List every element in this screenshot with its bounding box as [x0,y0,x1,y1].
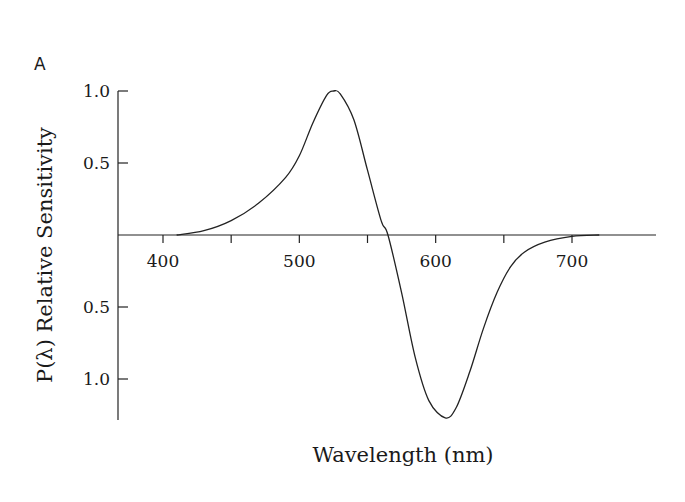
x-tick-label: 500 [283,251,315,271]
sensitivity-curve [177,91,600,419]
x-tick-label: 400 [147,251,179,271]
y-tick-label: 0.5 [83,153,110,173]
y-tick-label: 0.5 [83,297,110,317]
chart-figure: A 1.00.50.51.0 400500600700 P(λ) Relativ… [0,0,685,502]
y-tick-label: 1.0 [83,369,110,389]
x-tick-label: 600 [419,251,451,271]
y-tick-label: 1.0 [83,81,110,101]
x-axis-label: Wavelength (nm) [312,443,493,467]
y-axis-label: P(λ) Relative Sensitivity [33,127,57,383]
panel-label: A [34,54,46,74]
x-ticks: 400500600700 [147,235,588,271]
x-tick-label: 700 [556,251,588,271]
